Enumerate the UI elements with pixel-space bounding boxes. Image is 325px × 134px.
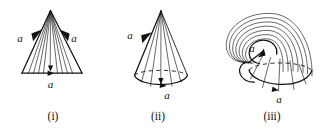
panel-i-right-edge [51, 11, 83, 74]
panel-ii-ruling-lines [142, 11, 182, 86]
panel-iii-rim-arrowhead [272, 87, 279, 93]
panel-ii-label-a-left: a [127, 29, 133, 41]
panel-ii-base-arrowhead [160, 83, 167, 89]
diagram-canvas: a a a (i) [0, 0, 325, 134]
panel-ii-label-a-base: a [164, 89, 170, 101]
panel-ii-group: a a (ii) [127, 11, 187, 123]
panel-ii-right-edge [161, 11, 188, 76]
panel-i-center-arrowhead [48, 66, 53, 72]
panel-iii-caption: (iii) [263, 110, 280, 123]
panel-iii-nested-arcs [226, 13, 312, 76]
panel-i-group: a a a (i) [17, 11, 82, 124]
panel-iii-label-a-loop: a [249, 42, 255, 54]
panel-i-label-a-left: a [17, 32, 23, 44]
panel-iii-group: a a (iii) [226, 13, 312, 123]
panel-iii-label-a-rim: a [276, 93, 282, 105]
panel-iii-loop-arrowhead [258, 48, 266, 57]
panel-ii-left-edge [135, 11, 162, 76]
panel-iii-fold-edge [240, 62, 255, 82]
panel-i-caption: (i) [48, 110, 59, 123]
panel-iii-rim-front-arc [249, 70, 312, 84]
panel-i-label-a-base: a [48, 78, 54, 90]
panel-i-base-arrowhead [48, 70, 54, 76]
panel-i-label-a-right: a [71, 32, 77, 44]
panel-ii-caption: (ii) [151, 110, 165, 123]
figure-root: a a a (i) [0, 0, 325, 134]
